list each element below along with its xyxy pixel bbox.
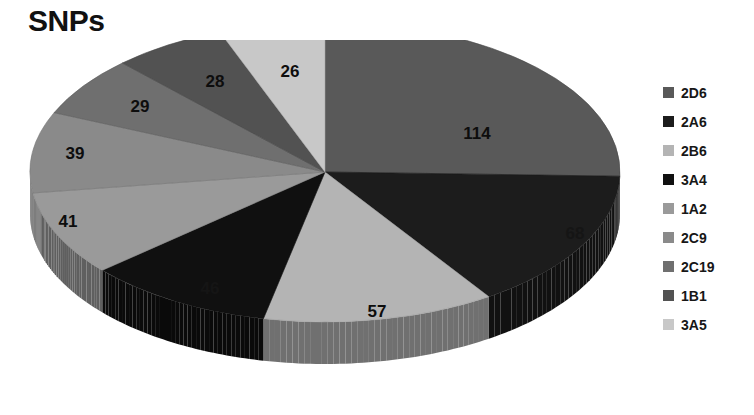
legend-swatch-icon <box>663 174 674 185</box>
legend-item-3A4[interactable]: 3A4 <box>663 165 751 194</box>
legend-item-2A6[interactable]: 2A6 <box>663 107 751 136</box>
legend-item-label: 2B6 <box>681 144 707 158</box>
pie-slice-wall-3A4 <box>183 304 187 347</box>
pie-slice-wall-2B6 <box>474 300 479 344</box>
pie-slice-wall-1A2 <box>94 265 97 309</box>
pie-slice-wall-2B6 <box>281 320 287 362</box>
pie-slice-wall-3A4 <box>133 286 137 330</box>
legend-item-1B1[interactable]: 1B1 <box>663 281 751 310</box>
pie-slice-wall-1A2 <box>40 210 41 254</box>
pie-slice-wall-2A6 <box>500 290 506 334</box>
pie-slice-wall-2A6 <box>614 198 615 244</box>
pie-slice-wall-1A2 <box>36 201 37 245</box>
pie-slice-wall-2B6 <box>310 322 316 364</box>
legend: 2D62A62B63A41A22C92C191B13A5 <box>663 78 751 339</box>
pie-slice-wall-1A2 <box>38 206 39 250</box>
pie-slice-wall-2B6 <box>431 311 436 354</box>
pie-slice-wall-2A6 <box>587 238 590 283</box>
pie-slice-2D6[interactable] <box>325 40 620 176</box>
pie-slice-wall-1A2 <box>52 228 54 272</box>
pie-slice-wall-3A4 <box>240 316 245 359</box>
pie-slice-wall-3A4 <box>159 296 163 339</box>
pie-slice-wall-1A2 <box>89 262 92 306</box>
pie-label-2C9: 39 <box>66 144 85 163</box>
pie-slice-wall-3A4 <box>209 310 213 353</box>
pie-slice-wall-2C9 <box>32 191 33 235</box>
pie-slice-wall-1A2 <box>35 199 36 243</box>
legend-swatch-icon <box>663 116 674 127</box>
pie-slice-wall-2B6 <box>298 321 304 363</box>
pie-slice-wall-1A2 <box>79 255 81 299</box>
pie-slice-wall-1A2 <box>86 260 89 304</box>
pie-slice-wall-2B6 <box>458 304 463 347</box>
pie-slice-wall-3A4 <box>167 299 171 342</box>
pie-slice-wall-2B6 <box>398 317 404 360</box>
legend-item-label: 2C9 <box>681 231 707 245</box>
legend-swatch-icon <box>663 232 674 243</box>
pie-slice-wall-2A6 <box>532 276 537 321</box>
pie-slice-wall-3A4 <box>213 311 217 354</box>
pie-slice-wall-3A4 <box>236 315 241 358</box>
legend-item-2B6[interactable]: 2B6 <box>663 136 751 165</box>
pie-slice-wall-3A4 <box>259 318 264 361</box>
pie-label-2C19: 29 <box>131 97 150 116</box>
legend-item-label: 2A6 <box>681 115 707 129</box>
pie-slice-wall-2B6 <box>420 313 426 356</box>
pie-slice-wall-2B6 <box>334 322 340 364</box>
pie-label-2D6: 114 <box>463 124 491 143</box>
legend-item-2C9[interactable]: 2C9 <box>663 223 751 252</box>
pie-slice-wall-1A2 <box>100 269 103 313</box>
pie-slice-wall-1A2 <box>33 193 34 237</box>
legend-item-1A2[interactable]: 1A2 <box>663 194 751 223</box>
pie-slice-wall-2B6 <box>453 306 458 349</box>
pie-slice-wall-2A6 <box>613 201 614 247</box>
pie-slice-wall-1A2 <box>70 248 72 292</box>
pie-slice-wall-3A4 <box>171 300 175 343</box>
pie-slice-wall-3A4 <box>140 289 144 333</box>
legend-item-label: 2D6 <box>681 86 707 100</box>
pie-slice-wall-3A4 <box>163 297 167 340</box>
pie-slice-wall-2B6 <box>263 319 269 362</box>
pie-slice-wall-2A6 <box>527 279 532 323</box>
pie-label-1A2: 41 <box>59 212 78 231</box>
pie-slice-wall-3A4 <box>151 293 155 336</box>
pie-slice-wall-2A6 <box>547 268 552 313</box>
pie-slice-wall-1A2 <box>44 218 45 262</box>
pie-slice-wall-3A4 <box>136 287 140 331</box>
pie-slice-wall-2A6 <box>568 254 572 299</box>
legend-swatch-icon <box>663 261 674 272</box>
legend-item-2D6[interactable]: 2D6 <box>663 78 751 107</box>
pie-slice-wall-3A4 <box>112 276 115 320</box>
pie-svg: 1146857464139292826 <box>0 40 640 415</box>
pie-slice-wall-2A6 <box>537 274 542 319</box>
pie-slice-wall-1A2 <box>68 246 70 290</box>
pie-label-3A5: 26 <box>281 62 300 81</box>
pie-label-3A4: 46 <box>201 279 220 298</box>
pie-slice-wall-2B6 <box>304 322 310 364</box>
legend-item-3A5[interactable]: 3A5 <box>663 310 751 339</box>
legend-item-2C19[interactable]: 2C19 <box>663 252 751 281</box>
pie-slice-wall-1A2 <box>84 259 86 303</box>
pie-slice-wall-3A4 <box>126 283 130 327</box>
pie-slice-wall-2B6 <box>322 322 328 364</box>
pie-slice-wall-1A2 <box>58 236 60 280</box>
pie-slice-wall-3A4 <box>254 318 259 361</box>
pie-slice-wall-1A2 <box>64 242 66 286</box>
legend-swatch-icon <box>663 87 674 98</box>
pie-slice-wall-2B6 <box>292 321 298 363</box>
pie-slice-wall-2B6 <box>381 319 387 362</box>
legend-swatch-icon <box>663 290 674 301</box>
pie-slice-wall-3A4 <box>119 279 122 323</box>
pie-slice-wall-2B6 <box>442 308 447 351</box>
pie-slice-wall-1A2 <box>42 214 43 258</box>
pie-slice-wall-2B6 <box>448 307 453 350</box>
pie-slice-wall-2A6 <box>583 241 586 286</box>
pie-slice-wall-1A2 <box>57 234 59 278</box>
pie-slice-wall-3A4 <box>129 284 133 328</box>
pie-slice-wall-2A6 <box>495 293 501 337</box>
pie-slice-wall-2B6 <box>369 320 375 362</box>
pie-slice-wall-2B6 <box>437 310 442 353</box>
pie-slice-wall-2B6 <box>275 320 281 362</box>
pie-slice-wall-2B6 <box>357 321 363 363</box>
pie-slice-wall-1A2 <box>47 222 48 266</box>
